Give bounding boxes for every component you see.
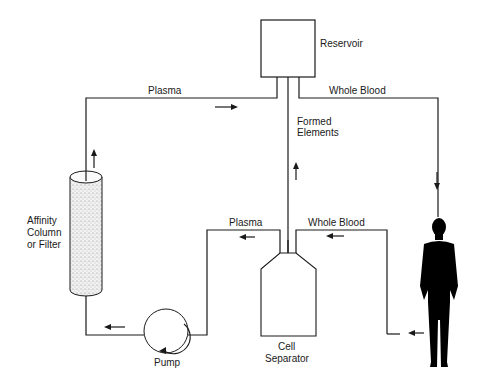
affinity-label-1: Affinity	[27, 215, 57, 226]
formed-elements-label-2: Elements	[297, 127, 339, 138]
patient-silhouette-icon	[420, 218, 458, 367]
affinity-label-2: Column	[27, 227, 61, 238]
arrow-up-icon	[293, 162, 299, 180]
arrow-left-icon	[104, 324, 125, 330]
cell-label-2: Separator	[265, 353, 310, 364]
pump-label: Pump	[154, 357, 181, 368]
apheresis-diagram: Reservoir Plasma Formed Elements Whole B…	[0, 0, 485, 387]
formed-elements-label-1: Formed	[297, 116, 331, 127]
affinity-label-3: or Filter	[27, 239, 62, 250]
plasma-mid-label: Plasma	[229, 217, 263, 228]
plasma-return-line	[86, 77, 277, 170]
plasma-top-label: Plasma	[148, 85, 182, 96]
cell-label-1: Cell	[278, 341, 295, 352]
arrow-right-icon	[215, 104, 238, 110]
affinity-column	[70, 170, 102, 296]
whole-blood-top-label: Whole Blood	[329, 85, 386, 96]
arrow-up-icon	[91, 149, 97, 168]
reservoir-box	[261, 20, 315, 77]
arrow-down-icon	[434, 172, 440, 190]
reservoir-label: Reservoir	[320, 38, 363, 49]
pump	[144, 309, 190, 354]
arrow-left-icon	[239, 234, 255, 240]
cell-separator	[261, 253, 316, 336]
whole-blood-to-patient-line	[299, 77, 438, 217]
arrow-left-icon	[408, 330, 424, 336]
column-to-pump-line	[86, 296, 144, 335]
arrow-left-icon	[326, 233, 344, 239]
whole-blood-mid-label: Whole Blood	[308, 217, 365, 228]
